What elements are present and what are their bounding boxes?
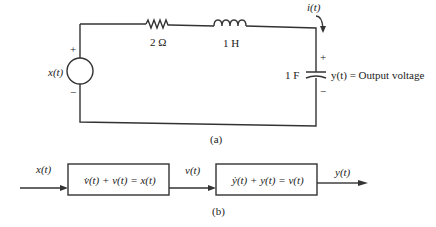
source-plus: + bbox=[70, 44, 76, 55]
current-label: i(t) bbox=[307, 2, 320, 13]
capacitor-plus: + bbox=[320, 52, 326, 63]
inductor-icon bbox=[214, 20, 246, 26]
arrow-head-icon bbox=[60, 185, 68, 191]
arrow-head-icon bbox=[320, 26, 326, 33]
arrow-head-icon bbox=[208, 185, 216, 191]
block2-equation: ẏ(t) + y(t) = v(t) bbox=[232, 175, 304, 186]
source-minus: − bbox=[70, 87, 76, 98]
diagram-graphics bbox=[0, 0, 436, 227]
caption-b: (b) bbox=[212, 206, 225, 217]
voltage-source-icon bbox=[67, 58, 93, 84]
resistor-icon bbox=[146, 20, 170, 28]
source-label: x(t) bbox=[48, 67, 63, 78]
arrow-head-icon bbox=[358, 180, 368, 186]
input-signal-label: x(t) bbox=[36, 164, 51, 175]
inductor-label: 1 H bbox=[223, 38, 239, 49]
resistor-label: 2 Ω bbox=[150, 37, 166, 48]
wire-top-right bbox=[246, 26, 316, 72]
output-signal-label: y(t) bbox=[335, 167, 350, 178]
caption-a: (a) bbox=[210, 134, 222, 145]
intermediate-signal-label: v(t) bbox=[185, 165, 200, 176]
block1-equation: v̇(t) + v(t) = x(t) bbox=[84, 175, 156, 186]
wire-bottom bbox=[80, 78, 316, 126]
output-voltage-label: y(t) = Output voltage bbox=[331, 70, 424, 81]
capacitor-icon bbox=[306, 72, 326, 78]
capacitor-minus: − bbox=[320, 86, 326, 97]
capacitor-label: 1 F bbox=[285, 70, 299, 81]
